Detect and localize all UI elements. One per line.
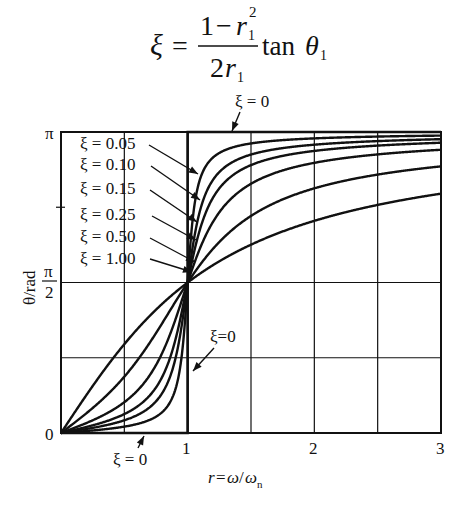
y-tick-half-pi-num: π: [44, 262, 53, 281]
x-tick-2: 2: [309, 439, 318, 458]
y-tick-pi: π: [45, 124, 54, 143]
phase-chart: ξ = 0.05 ξ = 0.10 ξ = 0.15 ξ = 0.25 ξ = …: [0, 0, 465, 508]
x-label-omega-n: ω: [245, 468, 257, 487]
x-tick-1: 1: [182, 439, 191, 458]
y-tick-zero: 0: [45, 425, 54, 444]
legend-label-zeta-0.50: ξ = 0.50: [80, 227, 135, 246]
legend-label-zeta-0.05: ξ = 0.05: [80, 134, 135, 153]
y-tick-half-pi-den: 2: [45, 283, 54, 302]
x-label-slash: /: [239, 468, 244, 487]
x-label-r: r: [208, 468, 215, 487]
arrowhead-icon: [232, 121, 239, 131]
legend-label-zeta-0.25: ξ = 0.25: [80, 205, 135, 224]
arrowhead-icon: [191, 192, 200, 200]
annotation-zeta0-top: ξ = 0: [235, 92, 269, 111]
legend-label-zeta-0.10: ξ = 0.10: [80, 155, 135, 174]
legend-label-zeta-0.15: ξ = 0.15: [80, 179, 135, 198]
x-tick-3: 3: [436, 439, 445, 458]
x-label-sub-n: n: [257, 478, 263, 490]
annotation-zeta0-bottom: ξ = 0: [113, 450, 147, 469]
x-axis-label: r = ω / ω n: [208, 468, 263, 490]
y-axis-label: θ/rad: [20, 270, 39, 305]
x-label-eq: =: [216, 468, 226, 487]
x-label-omega: ω: [227, 468, 239, 487]
arrowhead-icon: [188, 214, 197, 222]
arrowhead-icon: [188, 166, 198, 174]
annotation-zeta0-mid: ξ=0: [210, 327, 236, 346]
legend-label-zeta-1.00: ξ = 1.00: [80, 249, 135, 268]
arrowhead-icon: [137, 436, 144, 446]
